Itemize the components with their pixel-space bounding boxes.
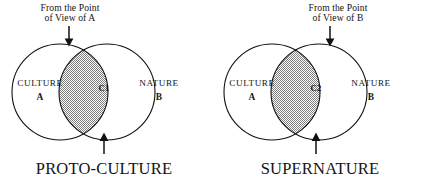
set-letter-a: A <box>8 92 72 102</box>
venn-figure: From the Point of View of A CULTURE A NA… <box>0 0 424 186</box>
diagram-proto-culture <box>12 26 155 154</box>
pov-note-a: From the Point of View of A <box>18 3 122 24</box>
set-letter-b-2: B <box>340 92 402 102</box>
set-letter-a-2: A <box>220 92 284 102</box>
set-label-nature-b: NATURE <box>128 79 190 89</box>
set-label-culture-a: CULTURE <box>8 79 72 89</box>
pov-note-b: From the Point of View of B <box>286 3 390 24</box>
caption-arrow-head-a <box>100 133 109 142</box>
pov-arrow-head-b <box>326 39 335 47</box>
caption-supernature: SUPERNATURE <box>230 160 410 178</box>
set-letter-b: B <box>128 92 190 102</box>
set-label-nature-b-2: NATURE <box>340 79 402 89</box>
caption-arrow-head-b <box>312 133 321 142</box>
set-label-culture-a-2: CULTURE <box>220 79 284 89</box>
intersection-label-c2: C2 <box>301 84 331 93</box>
diagram-supernature <box>224 26 367 154</box>
caption-proto-culture: PROTO-CULTURE <box>14 160 194 178</box>
intersection-label-c1: C1 <box>89 84 119 93</box>
